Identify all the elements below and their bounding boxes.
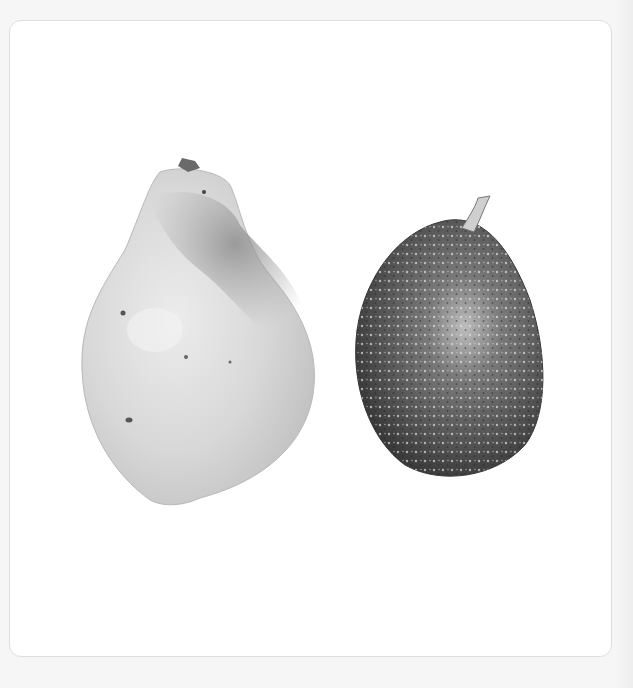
fruit-illustration	[0, 0, 633, 688]
avocado	[356, 196, 543, 476]
papaya	[82, 158, 315, 505]
page-edge-shadow	[615, 0, 633, 688]
